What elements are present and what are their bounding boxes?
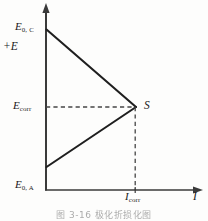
y-axis-label: +E bbox=[3, 41, 18, 53]
corrosion-current-label: Icorr bbox=[125, 191, 140, 202]
intersection-point-label: S bbox=[144, 100, 150, 112]
anode-equilibrium-potential-label: E0, A bbox=[15, 179, 34, 190]
anodic-polarization-curve bbox=[47, 107, 137, 167]
cathode-equilibrium-potential-label: E0, C bbox=[15, 21, 34, 32]
icorr-subscript: corr bbox=[129, 196, 141, 203]
figure-container: E0, C +E Ecorr E0, A Icorr I S 图 3-16 极化… bbox=[0, 0, 208, 221]
x-axis-label: I bbox=[193, 191, 197, 203]
x-axis bbox=[45, 187, 203, 194]
ecorr-subscript: corr bbox=[20, 105, 32, 112]
cathodic-polarization-curve bbox=[47, 30, 137, 108]
figure-caption: 图 3-16 极化折损化图 bbox=[0, 208, 208, 221]
e0c-subscript: 0, C bbox=[22, 26, 34, 33]
e0a-subscript: 0, A bbox=[22, 184, 34, 191]
ecorr-symbol: E bbox=[13, 99, 20, 111]
e0c-symbol: E bbox=[15, 20, 22, 32]
e0a-symbol: E bbox=[15, 178, 22, 190]
corrosion-potential-label: Ecorr bbox=[13, 100, 32, 111]
